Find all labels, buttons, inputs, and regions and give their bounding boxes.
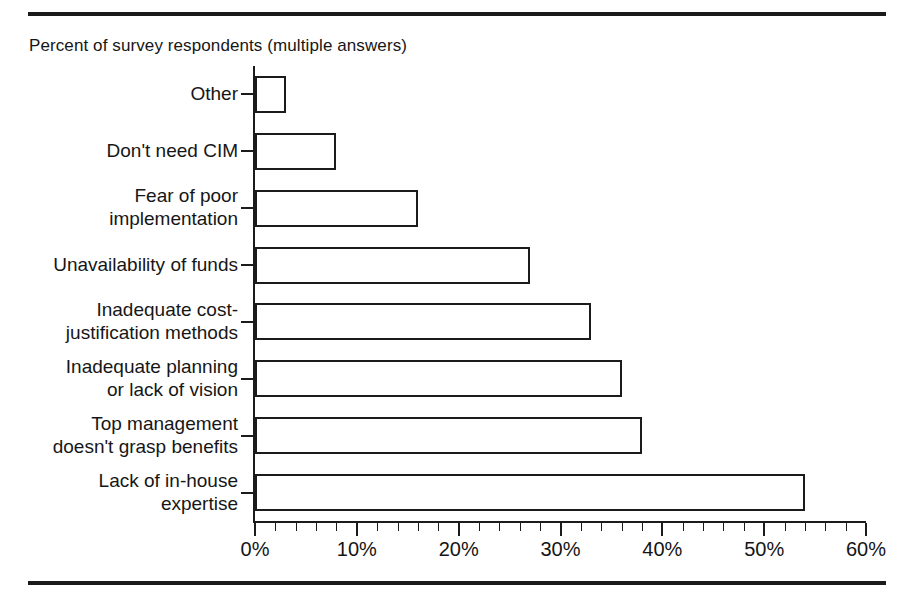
x-axis-tick-minor bbox=[316, 523, 317, 531]
bar bbox=[255, 303, 591, 340]
x-axis-tick-minor bbox=[825, 523, 826, 531]
x-axis-tick-minor bbox=[438, 523, 439, 531]
x-axis-tick-minor bbox=[479, 523, 480, 531]
bottom-rule bbox=[28, 581, 886, 585]
y-axis-tick bbox=[241, 150, 254, 152]
x-axis-tick-label: 10% bbox=[337, 538, 377, 561]
x-axis-tick-label: 20% bbox=[439, 538, 479, 561]
x-axis-tick-minor bbox=[642, 523, 643, 531]
bar bbox=[255, 247, 530, 284]
y-axis-tick bbox=[241, 93, 254, 95]
x-axis-tick-minor bbox=[723, 523, 724, 531]
x-axis-tick-minor bbox=[683, 523, 684, 531]
x-axis-tick-label: 60% bbox=[846, 538, 886, 561]
category-label: Inadequate planning or lack of vision bbox=[0, 355, 238, 401]
x-axis-tick-minor bbox=[520, 523, 521, 531]
x-axis-tick-minor bbox=[785, 523, 786, 531]
plot-area: 0%10%20%30%40%50%60% bbox=[255, 66, 866, 521]
x-axis-tick-major bbox=[865, 523, 867, 536]
x-axis-tick-minor bbox=[336, 523, 337, 531]
x-axis-tick-major bbox=[763, 523, 765, 536]
x-axis-tick-minor bbox=[418, 523, 419, 531]
x-axis-tick-minor bbox=[805, 523, 806, 531]
bar bbox=[255, 76, 286, 113]
x-axis-tick-label: 0% bbox=[241, 538, 270, 561]
x-axis-tick-minor bbox=[601, 523, 602, 531]
category-label: Lack of in-house expertise bbox=[0, 469, 238, 515]
category-label: Top management doesn't grasp benefits bbox=[0, 412, 238, 458]
x-axis-tick-minor bbox=[846, 523, 847, 531]
category-label: Don't need CIM bbox=[0, 139, 238, 162]
x-axis-tick-major bbox=[661, 523, 663, 536]
x-axis-tick-major bbox=[254, 523, 256, 536]
bar bbox=[255, 417, 642, 454]
y-axis-tick bbox=[241, 321, 254, 323]
y-axis-tick bbox=[241, 207, 254, 209]
x-axis-tick-minor bbox=[275, 523, 276, 531]
x-axis-tick-minor bbox=[377, 523, 378, 531]
chart-subtitle: Percent of survey respondents (multiple … bbox=[29, 36, 407, 56]
x-axis-tick-minor bbox=[703, 523, 704, 531]
category-label: Unavailability of funds bbox=[0, 253, 238, 276]
x-axis-tick-minor bbox=[581, 523, 582, 531]
x-axis-tick-minor bbox=[499, 523, 500, 531]
chart-figure: Percent of survey respondents (multiple … bbox=[0, 0, 915, 597]
x-axis-tick-label: 40% bbox=[642, 538, 682, 561]
x-axis-tick-minor bbox=[744, 523, 745, 531]
y-axis-tick bbox=[241, 435, 254, 437]
x-axis-tick-minor bbox=[398, 523, 399, 531]
x-axis-tick-minor bbox=[296, 523, 297, 531]
x-axis-tick-label: 30% bbox=[540, 538, 580, 561]
x-axis-tick-minor bbox=[622, 523, 623, 531]
y-axis-tick bbox=[241, 492, 254, 494]
y-axis-tick bbox=[241, 378, 254, 380]
category-label: Fear of poor implementation bbox=[0, 184, 238, 230]
bar bbox=[255, 190, 418, 227]
bar bbox=[255, 133, 336, 170]
x-axis-tick-major bbox=[356, 523, 358, 536]
x-axis-tick-minor bbox=[540, 523, 541, 531]
x-axis-tick-label: 50% bbox=[744, 538, 784, 561]
bar bbox=[255, 474, 805, 511]
top-rule bbox=[28, 12, 886, 16]
x-axis-tick-major bbox=[560, 523, 562, 536]
x-axis-tick-major bbox=[458, 523, 460, 536]
category-label: Other bbox=[0, 82, 238, 105]
category-label: Inadequate cost- justification methods bbox=[0, 298, 238, 344]
y-axis-tick bbox=[241, 264, 254, 266]
bar bbox=[255, 360, 622, 397]
